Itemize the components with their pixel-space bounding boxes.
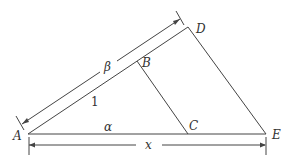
x-arrow-end-icon (260, 143, 266, 148)
label-ab-length: 1 (91, 95, 99, 109)
label-a: A (12, 129, 22, 143)
label-b: B (141, 56, 151, 70)
similar-triangles-diagram: A B C D E 1 α β x (0, 0, 294, 166)
segment-ad (28, 27, 188, 134)
label-ad-length: β (103, 60, 111, 74)
beta-dimension-line-right (117, 19, 180, 61)
segment-de (188, 27, 266, 134)
label-ac-length: α (104, 120, 112, 134)
beta-tick-end (176, 11, 184, 25)
label-d: D (195, 22, 206, 36)
beta-dimension-line-left (22, 72, 100, 124)
label-c: C (189, 119, 198, 133)
label-e: E (271, 128, 281, 142)
segment-bc (137, 61, 188, 134)
label-ae-length: x (145, 138, 152, 152)
beta-dimension (16, 11, 184, 130)
beta-arrow-end-icon (173, 19, 180, 25)
x-arrow-start-icon (29, 143, 35, 148)
beta-arrow-start-icon (22, 118, 29, 124)
